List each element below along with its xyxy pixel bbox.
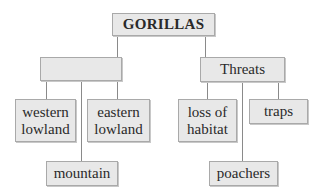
node-mountain: mountain [46, 161, 118, 186]
node-loss-of-habitat: loss of habitat [178, 99, 237, 142]
connector-threats-to-traps [278, 82, 279, 99]
connector-blank-to-mountain [81, 81, 82, 161]
node-gorillas-label: GORILLAS [123, 16, 205, 33]
node-threats: Threats [200, 57, 285, 82]
node-traps: traps [249, 99, 308, 124]
node-loss-of-habitat-label: loss of habitat [187, 104, 228, 138]
node-poachers-label: poachers [217, 165, 270, 182]
node-threats-label: Threats [220, 61, 265, 78]
connector-threats-to-poachers [242, 82, 243, 161]
node-mountain-label: mountain [54, 165, 111, 182]
connector-blank-to-western-lowland [46, 81, 47, 99]
node-eastern-lowland-label: eastern lowland [94, 104, 142, 138]
connector-blank-to-eastern-lowland [117, 81, 118, 99]
node-western-lowland: western lowland [15, 99, 76, 142]
connector-root-to-blank [117, 36, 118, 57]
connector-root-to-threats [205, 36, 206, 57]
node-western-lowland-label: western lowland [21, 104, 69, 138]
node-eastern-lowland: eastern lowland [87, 99, 150, 142]
connector-threats-to-loss-of-habitat [207, 82, 208, 99]
node-gorillas: GORILLAS [112, 13, 215, 36]
node-blank-category[interactable] [40, 57, 122, 81]
node-poachers: poachers [209, 161, 278, 186]
node-traps-label: traps [264, 103, 293, 120]
